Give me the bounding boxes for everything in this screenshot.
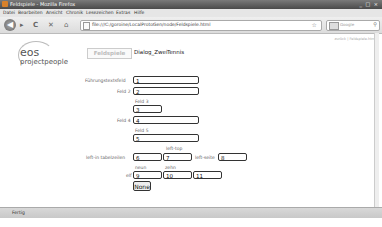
window-titlebar: Feldspiele - Mozilla Firefox _ □ × [0, 0, 382, 9]
bookmark-star-icon[interactable]: ☆ [312, 21, 317, 28]
left-tabelzeilen-input[interactable]: 6 [133, 153, 162, 161]
menu-hilfe[interactable]: Hilfe [134, 10, 144, 15]
menu-bar: Datei Bearbeiten Ansicht Chronik Lesezei… [0, 9, 382, 17]
forward-icon[interactable]: ▸ [20, 21, 24, 29]
fuehrungstext-label: Führungstextsfeld [85, 78, 126, 83]
zehn-input[interactable]: 10 [163, 171, 192, 179]
feld2-label: Feld 2 [117, 89, 131, 94]
neun-input[interactable]: 9 [133, 171, 162, 179]
tab-feldspiele[interactable]: Feldspiele [87, 48, 132, 59]
feld5-input[interactable]: 5 [133, 134, 199, 142]
navigation-toolbar: ◀ ▸ C ✕ ⌂ file:///C:/goroine/LocalProtoG… [0, 17, 382, 34]
stop-icon[interactable]: ✕ [48, 21, 54, 29]
elf-input[interactable]: 11 [193, 171, 222, 179]
logo-projectpeople: projectpeople [20, 58, 68, 66]
back-button[interactable]: ◀ [4, 19, 16, 31]
left-top-label: left-top [166, 146, 182, 151]
none-button[interactable]: None [133, 181, 151, 191]
url-text[interactable]: file:///C:/goroine/LocalProtoGen/node/Fe… [92, 22, 210, 27]
menu-extras[interactable]: Extras [116, 10, 130, 15]
left-top-input[interactable]: 7 [163, 153, 192, 161]
home-icon[interactable]: ⌂ [64, 21, 68, 29]
top-link[interactable]: zurück | Feldspiele.html [334, 37, 376, 41]
search-icon[interactable]: ⚲ [373, 21, 377, 27]
feld4-input[interactable]: 4 [133, 116, 199, 124]
feld3-label: Feld 3 [135, 99, 149, 104]
feld4-label: Feld 4 [117, 118, 131, 123]
left-side-input[interactable]: 8 [218, 153, 247, 161]
left-side-label: left-seite [195, 155, 215, 160]
zehn-label: zehn [165, 165, 176, 170]
fuehrungstext-input[interactable]: 1 [133, 76, 199, 84]
vertical-scrollbar[interactable] [374, 33, 379, 207]
status-text: Fertig [12, 210, 25, 215]
feld2-input[interactable]: 2 [133, 87, 199, 95]
status-bar: Fertig [0, 207, 382, 218]
feld3-input[interactable]: 3 [133, 105, 162, 113]
menu-chronik[interactable]: Chronik [66, 10, 83, 15]
tab-dialog-zwei[interactable]: Dialog_Zwei [134, 48, 167, 57]
elf-label: elf [126, 173, 132, 178]
reload-icon[interactable]: C [33, 21, 38, 29]
firefox-icon [2, 1, 8, 7]
tab-tennis[interactable]: Tennis [167, 48, 184, 57]
left-tabelzeilen-label: left-in tabelzeilen [86, 155, 125, 160]
search-engine-icon[interactable] [329, 22, 339, 30]
page-icon [83, 22, 90, 30]
search-bar[interactable]: Google ⚲ [326, 20, 380, 31]
menu-lesezeichen[interactable]: Lesezeichen [86, 10, 114, 15]
window-title: Feldspiele - Mozilla Firefox [10, 1, 75, 7]
menu-bearbeiten[interactable]: Bearbeiten [18, 10, 43, 15]
feld5-label: Feld 5 [135, 128, 149, 133]
search-placeholder[interactable]: Google [340, 22, 354, 27]
menu-ansicht[interactable]: Ansicht [46, 10, 63, 15]
neun-label: neun [135, 165, 146, 170]
menu-datei[interactable]: Datei [3, 10, 15, 15]
window-controls[interactable]: _ □ × [359, 1, 379, 7]
url-bar[interactable]: file:///C:/goroine/LocalProtoGen/node/Fe… [80, 20, 322, 31]
